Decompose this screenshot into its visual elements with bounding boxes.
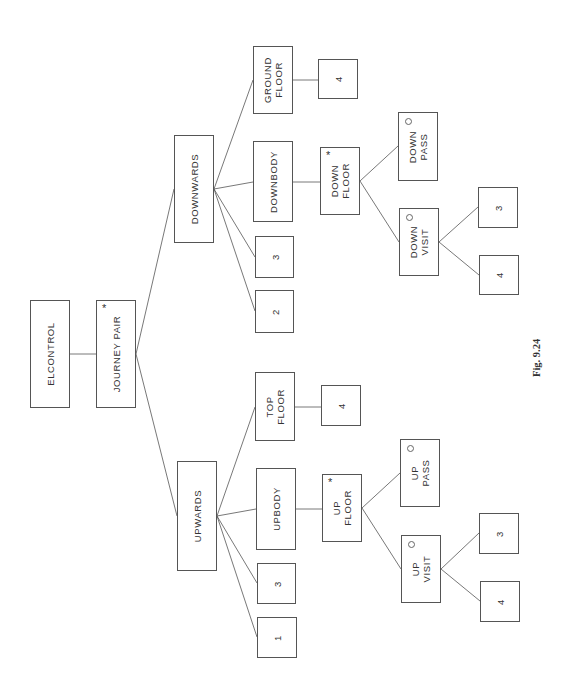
- node-label: 3: [269, 254, 280, 260]
- node-up-visit-4: 4: [480, 581, 520, 622]
- node-down-pass: DOWN PASS: [398, 112, 438, 181]
- node-label: 2: [269, 309, 280, 315]
- selection-circle-icon: [406, 214, 413, 221]
- node-label: UP FLOOR: [331, 490, 353, 526]
- node-label: UPWARDS: [192, 490, 203, 542]
- node-up-3: 3: [257, 563, 296, 604]
- node-label: DOWNBODY: [268, 151, 279, 213]
- node-label: 1: [272, 635, 283, 641]
- node-label: UP VISIT: [410, 556, 432, 583]
- node-label: TOP FLOOR: [264, 389, 286, 425]
- node-down-visit: DOWN VISIT: [399, 208, 439, 276]
- iteration-asterisk-icon: *: [326, 151, 330, 160]
- node-label: 3: [494, 531, 505, 537]
- node-label: 4: [494, 272, 505, 278]
- node-up-floor: * UP FLOOR: [322, 474, 362, 542]
- node-label: 4: [333, 76, 344, 82]
- node-up-visit-3: 3: [479, 513, 519, 554]
- node-down-3: 3: [255, 236, 294, 278]
- node-label: JOURNEY PAIR: [111, 316, 122, 393]
- node-label: 3: [493, 205, 504, 211]
- structure-diagram: ELCONTROL * JOURNEY PAIR DOWNWARDS UPWAR…: [0, 0, 563, 688]
- node-label: DOWN PASS: [407, 130, 429, 162]
- node-downbody: DOWNBODY: [253, 141, 293, 222]
- node-label: 4: [336, 403, 347, 409]
- node-label: DOWN FLOOR: [329, 163, 351, 199]
- node-top-floor: TOP FLOOR: [255, 372, 295, 441]
- node-label: ELCONTROL: [45, 322, 56, 385]
- node-label: UPBODY: [271, 487, 282, 531]
- node-journey-pair: * JOURNEY PAIR: [96, 300, 136, 408]
- node-upwards: UPWARDS: [177, 461, 217, 571]
- selection-circle-icon: [407, 445, 414, 452]
- selection-circle-icon: [408, 541, 415, 548]
- node-top-floor-4: 4: [321, 385, 361, 426]
- node-label: 4: [495, 599, 506, 605]
- node-elcontrol: ELCONTROL: [30, 300, 70, 408]
- node-label: 3: [271, 581, 282, 587]
- iteration-asterisk-icon: *: [102, 304, 106, 313]
- figure-caption: Fig. 9.24: [531, 341, 545, 377]
- node-downwards: DOWNWARDS: [174, 135, 214, 243]
- node-down-visit-3: 3: [478, 187, 518, 228]
- node-down-floor: * DOWN FLOOR: [320, 147, 360, 215]
- iteration-asterisk-icon: *: [328, 478, 332, 487]
- node-up-visit: UP VISIT: [401, 535, 441, 603]
- node-ground-floor-4: 4: [318, 59, 358, 99]
- node-ground-floor: GROUND FLOOR: [253, 46, 293, 114]
- selection-circle-icon: [405, 118, 412, 125]
- node-down-visit-4: 4: [479, 255, 519, 295]
- node-down-2: 2: [255, 290, 294, 333]
- node-up-1: 1: [257, 617, 297, 658]
- node-label: GROUND FLOOR: [262, 57, 284, 103]
- node-upbody: UPBODY: [256, 468, 296, 550]
- node-label: DOWNWARDS: [189, 154, 200, 225]
- node-label: UP PASS: [409, 459, 431, 486]
- node-up-pass: UP PASS: [400, 439, 440, 507]
- node-label: DOWN VISIT: [408, 226, 430, 258]
